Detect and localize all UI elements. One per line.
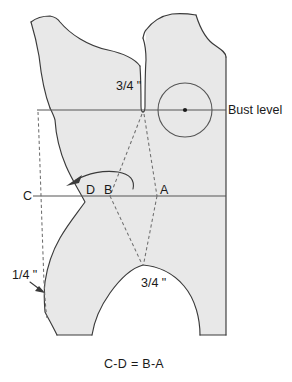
point-d-label: D xyxy=(86,184,95,197)
point-b-label: B xyxy=(104,184,112,197)
pattern-pieces xyxy=(31,14,226,335)
figure-caption: C-D = B-A xyxy=(104,358,164,371)
quarter-measure-arrow xyxy=(30,282,45,293)
point-c-label: C xyxy=(23,190,32,203)
quarter-measure-label: 1/4 " xyxy=(12,269,37,282)
bust-level-label: Bust level xyxy=(228,104,282,117)
neck-measure-label: 3/4 " xyxy=(116,80,141,93)
bust-centre-dot xyxy=(183,108,187,112)
pattern-diagram-figure: 3/4 " Bust level C D B A 1/4 " 3/4 " C-D… xyxy=(0,0,292,382)
pattern-drawing xyxy=(0,0,292,382)
armhole-measure-label: 3/4 " xyxy=(141,277,166,290)
point-a-label: A xyxy=(160,184,168,197)
